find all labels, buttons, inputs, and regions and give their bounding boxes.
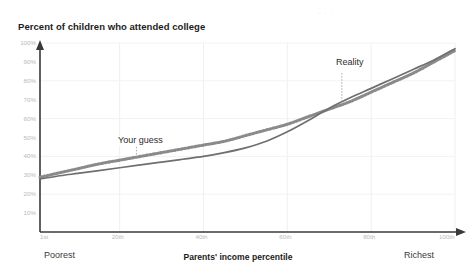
x-axis-tick-label: 100th xyxy=(439,234,454,240)
x-axis-tick-label: 1st xyxy=(40,234,48,240)
x-axis-tick-label: 60th xyxy=(279,234,291,240)
x-axis-tick-label: 20th xyxy=(112,234,124,240)
x-axis-tick-label: 80th xyxy=(363,234,375,240)
x-axis-title: Parents' income percentile xyxy=(0,252,476,262)
series-annotation-your-guess: Your guess xyxy=(117,136,164,146)
x-axis-tick-label: 40th xyxy=(195,234,207,240)
chart-screenshot: · · · Percent of children who attended c… xyxy=(0,0,476,274)
series-annotation-reality: Reality xyxy=(335,58,365,68)
x-axis-ticks: 1st20th40th60th80th100th xyxy=(0,0,476,274)
